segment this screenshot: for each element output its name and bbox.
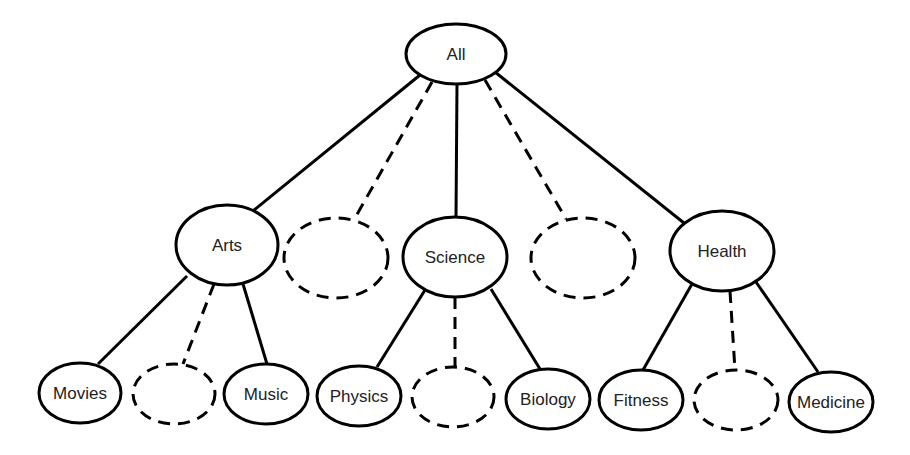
node-label: Medicine — [797, 393, 865, 412]
node-biology: Biology — [506, 369, 590, 429]
node-music: Music — [224, 364, 308, 424]
placeholder-ellipse — [412, 367, 494, 427]
node-placeholder-2 — [531, 218, 635, 298]
node-label: Arts — [212, 236, 242, 255]
edge-health-to-medicine — [756, 282, 818, 372]
category-tree-diagram: AllArtsScienceHealthMoviesMusicPhysicsBi… — [0, 0, 910, 455]
edge-arts-to-music — [243, 284, 267, 364]
node-physics: Physics — [317, 366, 401, 426]
placeholder-ellipse — [284, 218, 388, 298]
edge-science-to-physics — [377, 290, 425, 367]
node-fitness: Fitness — [599, 370, 683, 430]
node-movies: Movies — [39, 363, 121, 423]
node-label: Movies — [53, 384, 107, 403]
edge-all-to-placeholder-1 — [355, 82, 432, 218]
edge-arts-to-placeholder-3 — [183, 284, 214, 364]
edge-all-to-arts — [253, 75, 420, 211]
tree-nodes: AllArtsScienceHealthMoviesMusicPhysicsBi… — [39, 24, 873, 432]
node-arts: Arts — [176, 205, 278, 285]
node-placeholder-1 — [284, 218, 388, 298]
edge-all-to-health — [495, 72, 684, 223]
node-label: Biology — [520, 390, 576, 409]
node-label: Science — [425, 248, 485, 267]
node-placeholder-3 — [133, 364, 215, 424]
node-label: Health — [697, 242, 746, 261]
node-label: Music — [244, 385, 289, 404]
edge-health-to-placeholder-5 — [730, 291, 735, 370]
placeholder-ellipse — [531, 218, 635, 298]
edge-arts-to-movies — [98, 276, 187, 364]
edge-all-to-science — [456, 84, 457, 217]
node-placeholder-4 — [412, 367, 494, 427]
node-health: Health — [670, 211, 774, 291]
node-label: Physics — [330, 387, 389, 406]
placeholder-ellipse — [133, 364, 215, 424]
placeholder-ellipse — [694, 370, 778, 430]
node-all: All — [406, 24, 506, 84]
edge-all-to-placeholder-2 — [485, 80, 566, 219]
node-medicine: Medicine — [789, 372, 873, 432]
edge-health-to-fitness — [643, 284, 692, 370]
node-label: Fitness — [614, 391, 669, 410]
node-label: All — [447, 45, 466, 64]
node-placeholder-5 — [694, 370, 778, 430]
node-science: Science — [403, 217, 507, 297]
edge-science-to-biology — [491, 289, 540, 369]
